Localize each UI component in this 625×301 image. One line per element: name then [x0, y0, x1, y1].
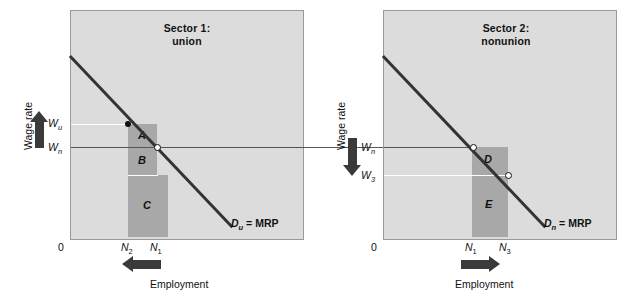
wage-tick-wn-letter: W [48, 141, 58, 153]
employment-tick-n3-letter: N [499, 241, 507, 253]
wage-tick-wn-right: Wn [361, 141, 375, 156]
demand-curve-label-dn: Dn = MRP [544, 217, 592, 232]
wage-tick-wn-right-sub: n [371, 147, 375, 156]
point-new [505, 172, 512, 179]
wage-tick-wu: Wu [48, 117, 62, 132]
panel-sector-2: Sector 2: nonunion E D Dn = MRP Wn W3 0 [313, 0, 625, 301]
employment-tick-n2-letter: N [121, 241, 129, 253]
curve-dn-rest: = MRP [556, 217, 591, 229]
wage-line-wn-right [384, 147, 474, 148]
region-e-label: E [485, 198, 492, 210]
y-axis-title-left: Wage rate [22, 102, 34, 150]
curve-d-letter: D [231, 217, 239, 229]
wage-line-wu [71, 124, 129, 125]
wage-line-wn-left [71, 147, 302, 148]
origin-label-left: 0 [58, 241, 64, 253]
panel-title-sector-2: Sector 2: nonunion [441, 22, 571, 48]
panel-title2-line2: nonunion [481, 35, 530, 47]
point-equilibrium [154, 144, 161, 151]
panel-title2-line1: Sector 2: [483, 22, 530, 34]
employment-tick-n1r-sub: 1 [473, 247, 477, 256]
x-axis-title-left: Employment [150, 278, 208, 290]
wage-tick-wu-sub: u [58, 123, 62, 132]
employment-tick-n1r-letter: N [465, 241, 473, 253]
employment-tick-n1-right: N1 [465, 241, 477, 256]
wage-tick-w3-sub: 3 [371, 175, 375, 184]
wage-tick-wu-letter: W [48, 117, 58, 129]
point-initial [470, 144, 477, 151]
y-axis-title-right: Wage rate [335, 102, 347, 150]
wage-tick-wn-right-letter: W [361, 141, 371, 153]
panel-title-line2: union [172, 35, 202, 47]
curve-d-rest: = MRP [243, 217, 278, 229]
point-union-wage [125, 121, 131, 127]
economics-figure: Sector 1: union C B A Du = MRP Wu [0, 0, 625, 301]
employment-tick-n1-sub: 1 [158, 247, 162, 256]
wage-tick-wn-sub: n [58, 147, 62, 156]
employment-tick-n3-sub: 3 [507, 247, 511, 256]
employment-tick-n3: N3 [499, 241, 511, 256]
employment-tick-n2-sub: 2 [129, 247, 133, 256]
employment-tick-n1-letter: N [150, 241, 158, 253]
wage-line-w3 [384, 175, 508, 176]
separator-b-c [128, 175, 158, 176]
wage-tick-w3-letter: W [361, 169, 371, 181]
employment-tick-n2: N2 [121, 241, 133, 256]
panel-title-line1: Sector 1: [164, 22, 211, 34]
panel-sector-1: Sector 1: union C B A Du = MRP Wu [0, 0, 312, 301]
region-c-label: C [143, 199, 151, 211]
wage-tick-wn: Wn [48, 141, 62, 156]
wage-tick-w3: W3 [361, 169, 375, 184]
demand-curve-label-du: Du = MRP [231, 217, 279, 232]
x-axis-title-right: Employment [455, 278, 513, 290]
curve-dn-letter: D [544, 217, 552, 229]
region-b-label: B [138, 154, 146, 166]
origin-label-right: 0 [371, 241, 377, 253]
employment-tick-n1: N1 [150, 241, 162, 256]
panel-title-sector-1: Sector 1: union [128, 22, 246, 48]
